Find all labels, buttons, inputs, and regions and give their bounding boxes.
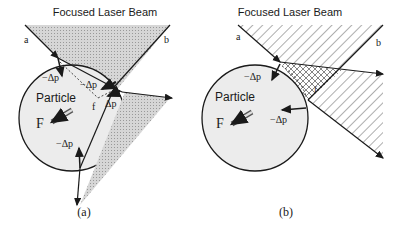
ray-a-label-b: a	[236, 31, 241, 42]
momentum-label-3: Δp	[105, 98, 116, 109]
ray-a-label: a	[24, 34, 29, 45]
particle-label-b: Particle	[215, 90, 255, 104]
momentum-label-b2: −Δp	[270, 114, 287, 125]
momentum-label-2: −Δp	[80, 79, 97, 90]
momentum-label-b1: −Δp	[244, 71, 261, 82]
panel-a	[19, 25, 172, 205]
momentum-label-1: −Δp	[42, 72, 59, 83]
force-label-b: F	[216, 116, 224, 131]
caption-a: (a)	[77, 205, 90, 219]
optical-trap-diagram: Focused Laser Beam a b f −Δp −Δp Δp −Δp …	[0, 0, 400, 238]
panel-b-title: Focused Laser Beam	[238, 6, 343, 18]
panel-a-title: Focused Laser Beam	[53, 6, 158, 18]
focus-f-label-b: f	[314, 84, 317, 94]
caption-b: (b)	[279, 205, 293, 219]
ray-b-label-b: b	[376, 37, 381, 48]
ray-b-label: b	[164, 34, 169, 45]
force-label-a: F	[36, 116, 44, 131]
particle-label-a: Particle	[36, 91, 76, 105]
momentum-label-4: −Δp	[56, 138, 73, 149]
